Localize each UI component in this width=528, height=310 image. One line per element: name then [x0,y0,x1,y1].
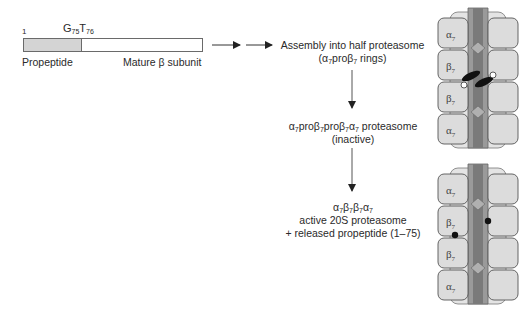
inactive-site-marker [490,72,496,78]
step3-line2: active 20S proteasome [268,214,438,227]
step2-label: α7proβ7proβ7α7 proteasome (inactive) [268,120,438,146]
step2-line2: (inactive) [268,133,438,146]
step3-line1: α7β7β7α7 [268,201,438,214]
proteasome-active: α7 β7 β7 α7 [438,164,518,304]
step1-line2: (α7proβ7 rings) [270,52,435,65]
diagram-graphics: α7 β7 β7 α7 α7 β7 β7 α7 [0,0,528,310]
inactive-site-marker [461,82,467,88]
step1-label: Assembly into half proteasome (α7proβ7 r… [270,39,435,65]
proteasome-inactive: α7 β7 β7 α7 [438,8,518,148]
step1-line1: Assembly into half proteasome [270,39,435,52]
step2-line1: α7proβ7proβ7α7 proteasome [268,120,438,133]
step3-label: α7β7β7α7 active 20S proteasome + release… [268,201,438,240]
active-site-marker [452,232,458,238]
active-site-marker [485,218,491,224]
step3-line3: + released propeptide (1–75) [268,227,438,240]
